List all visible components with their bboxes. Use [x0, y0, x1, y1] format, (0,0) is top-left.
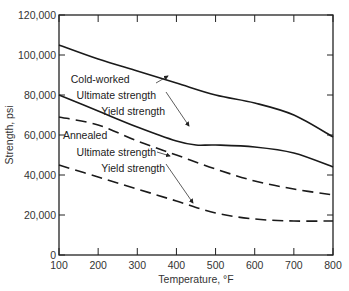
x-tick-label: 100: [50, 259, 68, 271]
x-tick-label: 500: [207, 259, 225, 271]
x-tick-label: 700: [285, 259, 303, 271]
y-tick-label: 120,000: [18, 9, 56, 21]
leader-arrow: [166, 92, 189, 126]
label-cw-yield: Yield strength: [101, 105, 165, 117]
y-tick-label: 100,000: [18, 49, 56, 61]
y-tick-label: 40,000: [24, 169, 56, 181]
leader-arrow: [157, 152, 170, 156]
leader-arrow: [166, 164, 193, 203]
series-annealed-yield: [59, 165, 333, 221]
strength-temperature-chart: 020,00040,00060,00080,000100,000120,000 …: [0, 0, 349, 291]
y-axis-title: Strength, psi: [3, 106, 15, 165]
x-tick-label: 400: [168, 259, 186, 271]
label-annealed: Annealed: [63, 129, 108, 141]
y-tick-label: 20,000: [24, 209, 56, 221]
x-tick-label: 800: [324, 259, 342, 271]
label-cold-worked: Cold-worked: [71, 73, 130, 85]
y-tick-label: 60,000: [24, 129, 56, 141]
label-cw-ultimate: Ultimate strength: [77, 89, 157, 101]
x-tick-label: 300: [129, 259, 147, 271]
y-tick-label: 80,000: [24, 89, 56, 101]
x-axis-title: Temperature, °F: [158, 273, 233, 285]
x-tick-label: 600: [246, 259, 264, 271]
label-an-yield: Yield strength: [101, 162, 165, 174]
label-an-ultimate: Ultimate strength: [77, 146, 157, 158]
x-axis: 100200300400500600700800: [50, 15, 342, 271]
x-tick-label: 200: [89, 259, 107, 271]
